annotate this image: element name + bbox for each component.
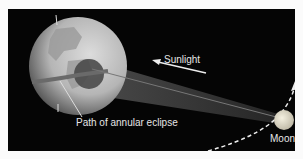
path-label: Path of annular eclipse <box>76 117 178 128</box>
eclipse-illustration <box>8 9 295 151</box>
sunlight-arrow-head <box>152 59 161 65</box>
sunlight-label: Sunlight <box>164 54 200 65</box>
moon-label: Moon <box>270 133 295 144</box>
diagram-panel: Sunlight Path of annular eclipse Moon <box>8 9 295 151</box>
orbit-arrow-head <box>291 81 295 91</box>
moon <box>274 110 294 130</box>
